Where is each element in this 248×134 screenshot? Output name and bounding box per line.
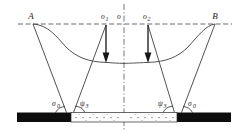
deck-segment bbox=[71, 113, 177, 123]
figure-root: A B o 1 o o 2 σ 0 ψ 3 ψ 3 σ 0 bbox=[0, 0, 248, 134]
abutment-right bbox=[177, 113, 231, 123]
label-psi-right-subscript: 3 bbox=[163, 103, 167, 109]
stay-line-b-right bbox=[182, 24, 216, 113]
label-pylon-left-subscript: 1 bbox=[106, 16, 109, 22]
label-pylon-right-subscript: 2 bbox=[148, 16, 151, 22]
load-arrow-right-head bbox=[145, 53, 152, 64]
abutment-left bbox=[17, 113, 71, 123]
label-sigma-right-subscript: 0 bbox=[193, 103, 196, 109]
label-anchor-left: A bbox=[27, 11, 34, 21]
label-sigma-left-subscript: 0 bbox=[57, 103, 60, 109]
label-psi-left-subscript: 3 bbox=[85, 103, 89, 109]
label-sigma-right: σ bbox=[188, 99, 192, 108]
cable-curve-center bbox=[106, 62, 148, 63]
label-pylon-left: o bbox=[101, 12, 105, 21]
cable-curve-left bbox=[33, 24, 106, 62]
label-center-axis: o bbox=[117, 12, 121, 21]
label-psi-right: ψ bbox=[158, 99, 163, 108]
label-sigma-left: σ bbox=[52, 99, 56, 108]
stay-line-o1-left bbox=[74, 25, 107, 113]
diagram-canvas: A B o 1 o o 2 σ 0 ψ 3 ψ 3 σ 0 bbox=[0, 0, 248, 134]
label-anchor-right: B bbox=[212, 11, 218, 21]
label-psi-left: ψ bbox=[80, 99, 85, 108]
label-pylon-right: o bbox=[143, 12, 147, 21]
stay-line-a-left bbox=[33, 24, 67, 113]
load-arrow-left-head bbox=[103, 53, 110, 64]
